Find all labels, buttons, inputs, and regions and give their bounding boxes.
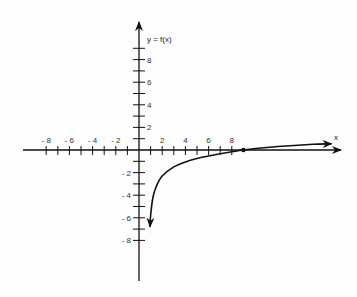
x-tick-label: 4 bbox=[183, 136, 188, 145]
y-tick-label: - 2 bbox=[122, 169, 132, 178]
y-tick-label: - 6 bbox=[122, 214, 132, 223]
y-tick-label: 2 bbox=[147, 123, 152, 132]
x-tick-label: - 2 bbox=[111, 136, 121, 145]
y-tick-label: - 8 bbox=[122, 236, 132, 245]
y-tick-label: 6 bbox=[147, 78, 152, 87]
axes bbox=[23, 22, 341, 281]
x-tick-label: - 6 bbox=[65, 136, 75, 145]
y-axis-label: y = f(x) bbox=[147, 35, 172, 44]
points bbox=[241, 148, 245, 152]
x-intercept-point bbox=[241, 148, 245, 152]
y-tick-label: - 4 bbox=[122, 191, 132, 200]
x-tick-label: 6 bbox=[206, 136, 211, 145]
chart: - 8- 6- 4- 224688642- 2- 4- 6- 8 y = f(x… bbox=[0, 0, 357, 297]
x-tick-label: 2 bbox=[160, 136, 165, 145]
y-tick-label: 4 bbox=[147, 101, 152, 110]
x-tick-label: - 8 bbox=[42, 136, 52, 145]
y-tick-label: 8 bbox=[147, 56, 152, 65]
x-axis-label: x bbox=[334, 133, 338, 142]
x-tick-label: 8 bbox=[230, 136, 235, 145]
x-tick-label: - 4 bbox=[88, 136, 98, 145]
function-curve bbox=[150, 144, 332, 227]
